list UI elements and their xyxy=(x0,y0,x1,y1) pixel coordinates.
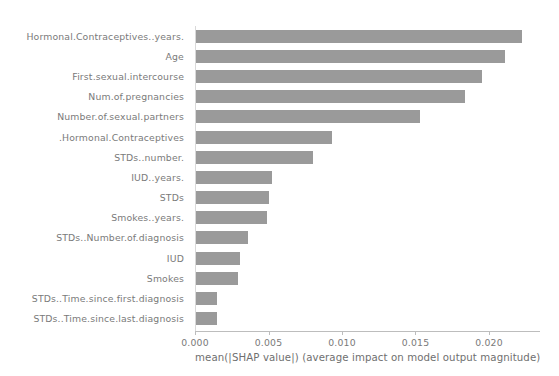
shap-feature-importance-chart: Hormonal.Contraceptives..years.AgeFirst.… xyxy=(0,0,559,376)
x-axis-title: mean(|SHAP value|) (average impact on mo… xyxy=(195,352,540,363)
feature-name-label: STDs..number. xyxy=(114,152,184,163)
feature-bar xyxy=(195,292,217,305)
feature-name-label: Hormonal.Contraceptives..years. xyxy=(26,31,184,42)
feature-name-label: IUD xyxy=(167,253,184,264)
x-tick-mark xyxy=(415,331,416,335)
feature-bar xyxy=(195,90,465,103)
x-tick-label: 0.005 xyxy=(255,337,283,348)
feature-name-label: STDs xyxy=(160,192,184,203)
bar-row xyxy=(195,46,540,66)
feature-bar xyxy=(195,30,522,43)
feature-name-label: .Hormonal.Contraceptives xyxy=(59,132,184,143)
y-tick-row: Num.of.pregnancies xyxy=(0,87,190,107)
x-tick-mark xyxy=(489,331,490,335)
y-tick-row: IUD xyxy=(0,248,190,268)
y-tick-row: STDs..Time.since.last.diagnosis xyxy=(0,309,190,329)
bar-row xyxy=(195,127,540,147)
y-tick-row: STDs xyxy=(0,188,190,208)
bar-row xyxy=(195,248,540,268)
bar-row xyxy=(195,228,540,248)
bar-row xyxy=(195,147,540,167)
x-tick-label: 0.000 xyxy=(181,337,209,348)
y-tick-row: Smokes xyxy=(0,268,190,288)
x-tick-label: 0.020 xyxy=(475,337,503,348)
x-tick-label: 0.015 xyxy=(402,337,430,348)
y-tick-row: Age xyxy=(0,46,190,66)
feature-name-label: First.sexual.intercourse xyxy=(72,71,184,82)
bar-row xyxy=(195,26,540,46)
feature-name-label: Number.of.sexual.partners xyxy=(57,111,184,122)
y-tick-row: STDs..number. xyxy=(0,147,190,167)
bar-row xyxy=(195,188,540,208)
y-tick-row: IUD..years. xyxy=(0,167,190,187)
y-tick-row: STDs..Number.of.diagnosis xyxy=(0,228,190,248)
feature-bar xyxy=(195,171,272,184)
feature-name-label: STDs..Time.since.last.diagnosis xyxy=(33,313,184,324)
feature-name-label: STDs..Number.of.diagnosis xyxy=(56,232,184,243)
feature-bar xyxy=(195,252,240,265)
feature-name-label: Smokes xyxy=(147,273,184,284)
feature-bar xyxy=(195,211,267,224)
feature-name-label: Num.of.pregnancies xyxy=(88,91,184,102)
feature-name-label: Smokes..years. xyxy=(111,212,184,223)
bar-row xyxy=(195,66,540,86)
feature-bar xyxy=(195,131,332,144)
bar-row xyxy=(195,167,540,187)
feature-name-label: IUD..years. xyxy=(131,172,184,183)
feature-bar xyxy=(195,191,269,204)
x-tick-mark xyxy=(269,331,270,335)
y-tick-row: STDs..Time.since.first.diagnosis xyxy=(0,288,190,308)
feature-bar xyxy=(195,50,505,63)
feature-name-label: STDs..Time.since.first.diagnosis xyxy=(32,293,184,304)
x-tick-mark xyxy=(195,331,196,335)
bar-row xyxy=(195,87,540,107)
y-tick-row: Number.of.sexual.partners xyxy=(0,107,190,127)
y-axis-tick-labels: Hormonal.Contraceptives..years.AgeFirst.… xyxy=(0,26,190,329)
plot-area xyxy=(195,26,540,329)
y-tick-row: Hormonal.Contraceptives..years. xyxy=(0,26,190,46)
x-tick-mark xyxy=(342,331,343,335)
bar-row xyxy=(195,309,540,329)
y-tick-row: Smokes..years. xyxy=(0,208,190,228)
bar-row xyxy=(195,288,540,308)
bar-row xyxy=(195,107,540,127)
bar-row xyxy=(195,208,540,228)
feature-bar xyxy=(195,272,238,285)
bar-row xyxy=(195,268,540,288)
y-tick-row: .Hormonal.Contraceptives xyxy=(0,127,190,147)
feature-bar xyxy=(195,110,420,123)
feature-bar xyxy=(195,151,313,164)
feature-bar xyxy=(195,70,482,83)
y-tick-row: First.sexual.intercourse xyxy=(0,66,190,86)
feature-bar xyxy=(195,312,217,325)
feature-name-label: Age xyxy=(166,51,184,62)
y-axis-spine xyxy=(195,26,196,332)
feature-bar xyxy=(195,231,248,244)
x-tick-label: 0.010 xyxy=(328,337,356,348)
